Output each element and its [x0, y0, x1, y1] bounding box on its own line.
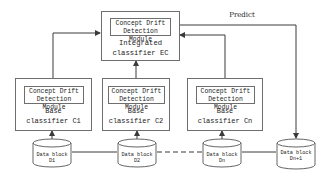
ec-title-line1: Integrated: [102, 39, 179, 47]
cn-drift-module: Concept Drift Detection Module: [196, 86, 255, 104]
c1-title-line1: Base: [16, 107, 91, 115]
c2-title-line1: Base: [103, 107, 169, 115]
ec-drift-module: Concept Drift Detection Module: [110, 18, 171, 36]
predict-label: Predict: [222, 11, 262, 19]
dn1-line2: Dn+1: [277, 156, 315, 162]
cn-title-line1: Base: [188, 107, 262, 115]
ec-module-line1: Concept Drift: [111, 20, 170, 28]
c1-title-line2: classifier C1: [16, 117, 91, 125]
data-block-dn-label: Data block Dn: [203, 152, 241, 164]
integrated-classifier-box: Concept Drift Detection Module Integrate…: [101, 11, 180, 61]
ec-title-line2: classifier EC: [102, 49, 179, 57]
data-block-d2-label: Data block D2: [118, 152, 156, 164]
base-classifier-c2-box: Concept Drift Detection Module Base clas…: [102, 78, 170, 131]
c1-module-line1: Concept Drift: [25, 88, 83, 96]
cn-module-line1: Concept Drift: [197, 88, 254, 96]
base-classifier-c1-box: Concept Drift Detection Module Base clas…: [15, 78, 92, 131]
arrow-cn-to-ec: [180, 35, 225, 78]
data-block-dn1-label: Data block Dn+1: [277, 150, 315, 162]
arrow-c1-to-ec: [53, 33, 100, 78]
c2-title-line2: classifier C2: [103, 117, 169, 125]
c2-drift-module: Concept Drift Detection Module: [108, 86, 165, 104]
data-block-d1-label: Data block D1: [33, 152, 71, 164]
dn-line1: Data block Dn: [203, 152, 241, 164]
c2-module-line1: Concept Drift: [109, 88, 164, 96]
base-classifier-cn-box: Concept Drift Detection Module Base clas…: [187, 78, 263, 131]
d1-line1: Data block D1: [33, 152, 71, 164]
c1-drift-module: Concept Drift Detection Module: [24, 86, 84, 104]
d2-line1: Data block D2: [118, 152, 156, 164]
cn-title-line2: classifier Cn: [188, 117, 262, 125]
